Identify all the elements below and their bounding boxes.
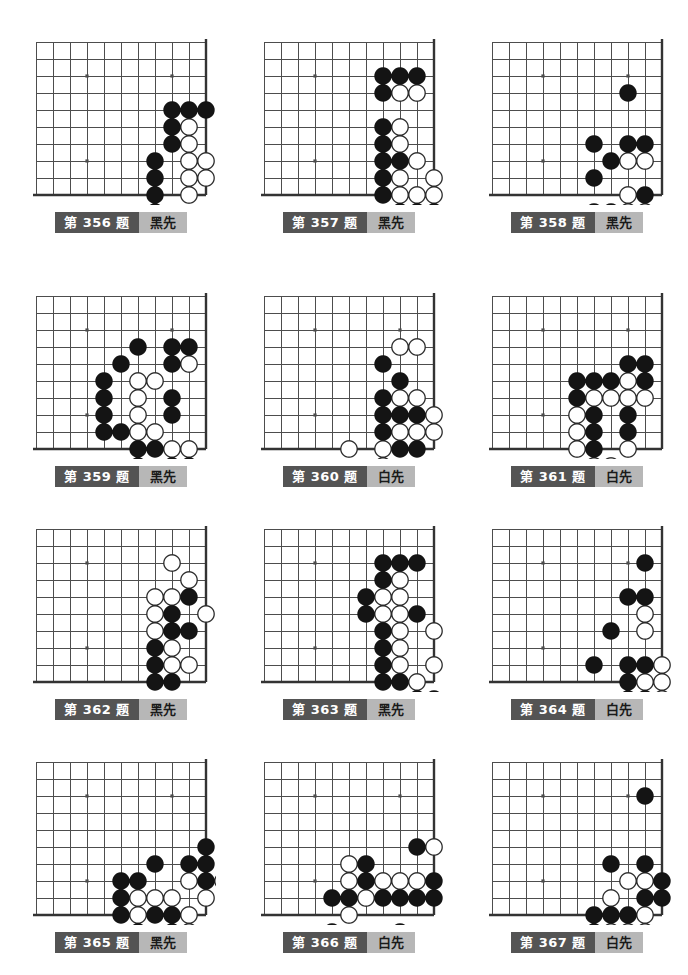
problem-367: 第 367 题白先 — [482, 752, 672, 953]
problem-number-359: 第 359 题 — [55, 466, 139, 487]
go-board-365[interactable] — [26, 752, 216, 925]
problem-364: 第 364 题白先 — [482, 519, 672, 720]
problem-356: 第 356 题黑先 — [26, 32, 216, 233]
problem-number-363: 第 363 题 — [283, 699, 367, 720]
problem-label-360: 第 360 题白先 — [283, 466, 415, 487]
problem-366: 第 366 题白先 — [254, 752, 444, 953]
go-board-canvas-363[interactable] — [254, 519, 444, 692]
problem-number-360: 第 360 题 — [283, 466, 367, 487]
problem-label-363: 第 363 题黑先 — [283, 699, 415, 720]
problem-number-362: 第 362 题 — [55, 699, 139, 720]
problem-360: 第 360 题白先 — [254, 286, 444, 487]
problem-label-364: 第 364 题白先 — [511, 699, 643, 720]
go-board-357[interactable] — [254, 32, 444, 205]
problem-turn-358: 黑先 — [595, 212, 643, 233]
problem-turn-367: 白先 — [595, 932, 643, 953]
problem-label-361: 第 361 题白先 — [511, 466, 643, 487]
problem-label-356: 第 356 题黑先 — [55, 212, 187, 233]
problem-357: 第 357 题黑先 — [254, 32, 444, 233]
go-board-canvas-367[interactable] — [482, 752, 672, 925]
go-board-359[interactable] — [26, 286, 216, 459]
problem-turn-360: 白先 — [367, 466, 415, 487]
go-board-361[interactable] — [482, 286, 672, 459]
go-board-366[interactable] — [254, 752, 444, 925]
go-board-360[interactable] — [254, 286, 444, 459]
go-board-canvas-365[interactable] — [26, 752, 216, 925]
problem-turn-361: 白先 — [595, 466, 643, 487]
problem-number-365: 第 365 题 — [55, 932, 139, 953]
go-board-canvas-362[interactable] — [26, 519, 216, 692]
problem-number-361: 第 361 题 — [511, 466, 595, 487]
problem-turn-364: 白先 — [595, 699, 643, 720]
problem-number-367: 第 367 题 — [511, 932, 595, 953]
problem-label-357: 第 357 题黑先 — [283, 212, 415, 233]
problem-number-364: 第 364 题 — [511, 699, 595, 720]
problem-label-365: 第 365 题黑先 — [55, 932, 187, 953]
go-board-364[interactable] — [482, 519, 672, 692]
go-board-362[interactable] — [26, 519, 216, 692]
problem-label-366: 第 366 题白先 — [283, 932, 415, 953]
problem-number-356: 第 356 题 — [55, 212, 139, 233]
go-board-canvas-361[interactable] — [482, 286, 672, 459]
problem-number-357: 第 357 题 — [283, 212, 367, 233]
problem-sheet: 第 356 题黑先第 357 题黑先第 358 题黑先第 359 题黑先第 36… — [0, 0, 688, 975]
problem-362: 第 362 题黑先 — [26, 519, 216, 720]
problem-359: 第 359 题黑先 — [26, 286, 216, 487]
go-board-canvas-356[interactable] — [26, 32, 216, 205]
problem-label-367: 第 367 题白先 — [511, 932, 643, 953]
problem-turn-362: 黑先 — [139, 699, 187, 720]
problem-365: 第 365 题黑先 — [26, 752, 216, 953]
problem-turn-359: 黑先 — [139, 466, 187, 487]
go-board-363[interactable] — [254, 519, 444, 692]
problem-361: 第 361 题白先 — [482, 286, 672, 487]
problem-turn-363: 黑先 — [367, 699, 415, 720]
go-board-356[interactable] — [26, 32, 216, 205]
problem-363: 第 363 题黑先 — [254, 519, 444, 720]
problem-number-366: 第 366 题 — [283, 932, 367, 953]
go-board-canvas-359[interactable] — [26, 286, 216, 459]
problem-turn-356: 黑先 — [139, 212, 187, 233]
problem-label-358: 第 358 题黑先 — [511, 212, 643, 233]
problem-label-362: 第 362 题黑先 — [55, 699, 187, 720]
go-board-367[interactable] — [482, 752, 672, 925]
problem-turn-357: 黑先 — [367, 212, 415, 233]
go-board-canvas-357[interactable] — [254, 32, 444, 205]
go-board-358[interactable] — [482, 32, 672, 205]
go-board-canvas-358[interactable] — [482, 32, 672, 205]
problem-358: 第 358 题黑先 — [482, 32, 672, 233]
go-board-canvas-364[interactable] — [482, 519, 672, 692]
problem-label-359: 第 359 题黑先 — [55, 466, 187, 487]
problem-turn-366: 白先 — [367, 932, 415, 953]
go-board-canvas-366[interactable] — [254, 752, 444, 925]
problem-turn-365: 黑先 — [139, 932, 187, 953]
problem-number-358: 第 358 题 — [511, 212, 595, 233]
go-board-canvas-360[interactable] — [254, 286, 444, 459]
